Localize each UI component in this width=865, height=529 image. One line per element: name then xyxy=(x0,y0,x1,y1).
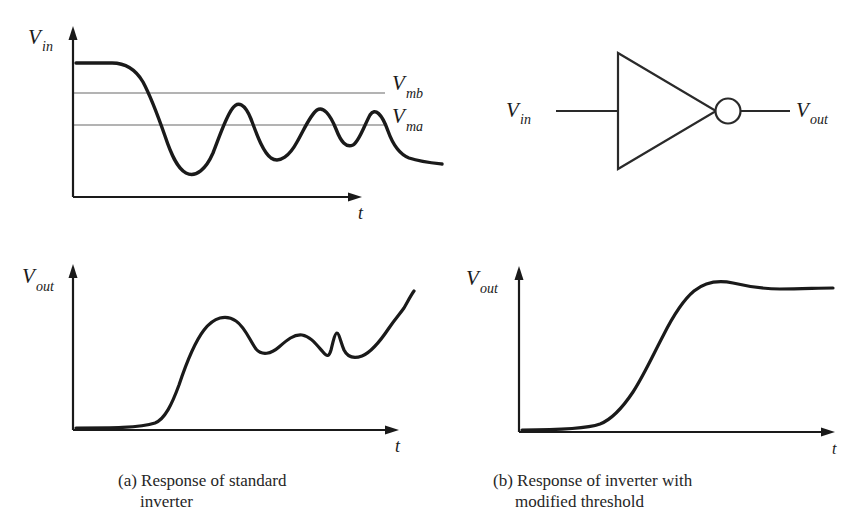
bottom-right-panel xyxy=(515,266,836,437)
top-left-panel xyxy=(69,26,443,202)
caption-a-line1: (a) Response of standard xyxy=(118,471,287,490)
label-vout-bl-sub: out xyxy=(36,279,55,294)
label-vma: V ma xyxy=(392,104,423,134)
label-vin-axis: V in xyxy=(28,25,53,54)
inverter-response-figure: V in t V mb V ma V in V out V out xyxy=(0,0,865,529)
label-vout-br-main: V xyxy=(466,266,481,290)
label-inverter-output-sub: out xyxy=(810,112,829,127)
label-vout-bl-main: V xyxy=(22,264,37,288)
label-t-bottom-left: t xyxy=(395,436,401,456)
top-right-panel xyxy=(556,53,790,169)
label-t-top-left: t xyxy=(358,203,364,223)
label-inverter-output-main: V xyxy=(796,98,811,122)
caption-b: (b) Response of inverter with modified t… xyxy=(493,470,823,512)
label-vin-sub: in xyxy=(42,39,53,54)
figure-canvas: V in t V mb V ma V in V out V out xyxy=(0,0,865,529)
label-inverter-output: V out xyxy=(796,98,829,127)
x-axis-arrowhead xyxy=(385,426,399,435)
caption-a-line2: inverter xyxy=(118,491,418,512)
label-vin-main: V xyxy=(28,25,43,49)
label-t-bottom-right: t xyxy=(832,440,837,457)
vin-waveform-curve xyxy=(76,63,442,174)
y-axis-arrowhead xyxy=(515,266,524,280)
caption-b-line2: modified threshold xyxy=(493,491,823,512)
label-inverter-input-main: V xyxy=(506,98,521,122)
y-axis-arrowhead xyxy=(69,264,78,278)
bottom-left-panel xyxy=(69,264,415,435)
x-axis-arrowhead xyxy=(821,428,835,437)
label-vout-br-sub: out xyxy=(480,281,499,296)
inverter-triangle xyxy=(618,53,716,169)
x-axis-arrowhead xyxy=(348,193,362,202)
label-vmb: V mb xyxy=(392,71,423,101)
label-vout-bottom-right: V out xyxy=(466,266,499,296)
vout-standard-curve xyxy=(76,291,414,428)
label-vmb-main: V xyxy=(392,71,407,95)
caption-a: (a) Response of standard inverter xyxy=(118,470,418,512)
label-vma-main: V xyxy=(392,104,407,128)
inversion-bubble-icon xyxy=(716,99,741,124)
label-vma-sub: ma xyxy=(406,119,423,134)
y-axis-arrowhead xyxy=(69,26,78,40)
label-inverter-input: V in xyxy=(506,98,531,127)
label-inverter-input-sub: in xyxy=(520,112,531,127)
vout-modified-curve xyxy=(522,282,833,430)
caption-b-line1: (b) Response of inverter with xyxy=(493,471,692,490)
label-vout-bottom-left: V out xyxy=(22,264,55,294)
label-vmb-sub: mb xyxy=(406,86,423,101)
